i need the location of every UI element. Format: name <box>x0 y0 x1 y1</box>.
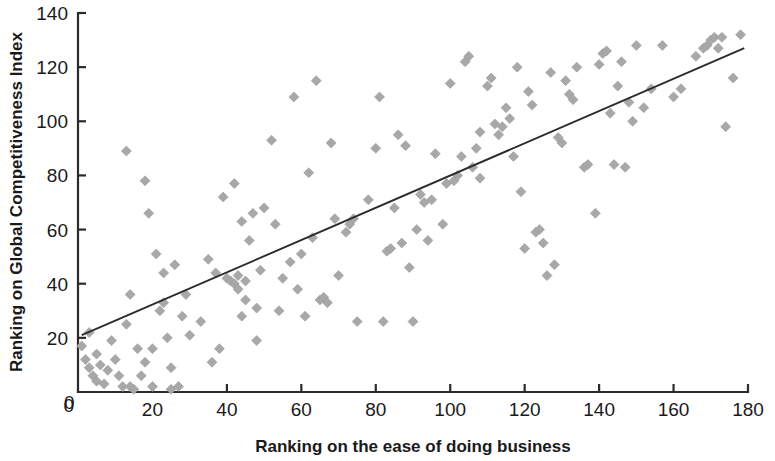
data-point <box>237 311 247 321</box>
data-point <box>304 168 314 178</box>
data-point <box>669 92 679 102</box>
x-tick-label: 80 <box>365 399 386 420</box>
x-tick-labels-group: 020406080100120140160180 <box>64 392 764 420</box>
y-tick-labels-group: 020406080100120140 <box>36 3 74 416</box>
y-tick-label: 0 <box>63 395 74 416</box>
data-point <box>456 151 466 161</box>
data-point <box>218 192 228 202</box>
data-point <box>326 138 336 148</box>
data-point <box>445 78 455 88</box>
data-point <box>721 122 731 132</box>
data-point <box>121 146 131 156</box>
tick-marks-group <box>78 13 748 392</box>
data-point <box>170 260 180 270</box>
y-tick-label: 140 <box>36 3 68 24</box>
data-point <box>613 81 623 91</box>
data-point <box>140 176 150 186</box>
data-point <box>378 317 388 327</box>
data-point <box>527 100 537 110</box>
data-point <box>278 273 288 283</box>
data-point <box>393 130 403 140</box>
data-point <box>92 349 102 359</box>
data-point <box>549 260 559 270</box>
data-point <box>110 355 120 365</box>
data-point <box>408 317 418 327</box>
data-point <box>594 59 604 69</box>
data-point <box>177 311 187 321</box>
data-point <box>121 319 131 329</box>
data-point <box>609 160 619 170</box>
data-point <box>736 30 746 40</box>
data-point <box>274 306 284 316</box>
data-point <box>285 257 295 267</box>
data-point <box>267 135 277 145</box>
x-tick-label: 20 <box>142 399 163 420</box>
y-tick-label: 120 <box>36 57 68 78</box>
data-point <box>147 344 157 354</box>
data-point <box>107 336 117 346</box>
data-point <box>423 235 433 245</box>
data-point <box>334 271 344 281</box>
data-point <box>114 371 124 381</box>
data-point <box>125 290 135 300</box>
data-point <box>363 195 373 205</box>
x-tick-label: 140 <box>583 399 615 420</box>
data-point <box>412 225 422 235</box>
x-tick-label: 40 <box>216 399 237 420</box>
data-point <box>144 208 154 218</box>
data-point <box>252 303 262 313</box>
data-point <box>371 143 381 153</box>
data-point <box>628 116 638 126</box>
data-point <box>270 219 280 229</box>
data-point <box>691 51 701 61</box>
y-axis-title: Ranking on Global Competitiveness Index <box>7 31 26 372</box>
data-point <box>389 203 399 213</box>
data-point <box>136 371 146 381</box>
data-point <box>203 254 213 264</box>
x-tick-label: 100 <box>434 399 466 420</box>
data-point <box>728 73 738 83</box>
data-point <box>207 357 217 367</box>
data-point <box>241 276 251 286</box>
data-point <box>159 268 169 278</box>
data-point <box>214 344 224 354</box>
data-point <box>713 43 723 53</box>
data-point <box>151 249 161 259</box>
data-point <box>166 363 176 373</box>
data-point <box>196 317 206 327</box>
data-point <box>605 108 615 118</box>
data-point <box>311 76 321 86</box>
data-point <box>509 151 519 161</box>
data-point <box>293 284 303 294</box>
data-point <box>430 149 440 159</box>
data-point <box>352 317 362 327</box>
data-point <box>676 84 686 94</box>
data-point <box>248 208 258 218</box>
data-point <box>546 68 556 78</box>
data-point <box>523 87 533 97</box>
y-tick-label: 100 <box>36 111 68 132</box>
data-point <box>147 382 157 392</box>
data-point <box>95 360 105 370</box>
data-point <box>133 344 143 354</box>
data-point <box>538 238 548 248</box>
data-point <box>289 92 299 102</box>
data-point <box>330 214 340 224</box>
data-point <box>590 208 600 218</box>
data-points-group <box>77 30 746 395</box>
data-point <box>505 114 515 124</box>
x-tick-label: 60 <box>291 399 312 420</box>
y-tick-label: 20 <box>47 328 68 349</box>
data-point <box>561 76 571 86</box>
data-point <box>404 262 414 272</box>
y-tick-label: 80 <box>47 165 68 186</box>
data-point <box>103 365 113 375</box>
x-axis-title: Ranking on the ease of doing business <box>255 437 571 456</box>
data-point <box>397 238 407 248</box>
y-tick-label: 40 <box>47 274 68 295</box>
data-point <box>717 32 727 42</box>
scatter-chart: 020406080100120140160180 020406080100120… <box>0 0 775 461</box>
data-point <box>620 162 630 172</box>
data-point <box>657 40 667 50</box>
data-point <box>401 141 411 151</box>
